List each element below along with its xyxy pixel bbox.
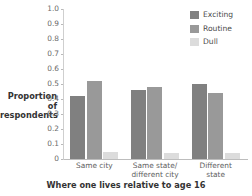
y-tick-label: 0.1 xyxy=(44,140,59,147)
x-tick-label-line: state xyxy=(180,171,252,180)
legend-label: Dull xyxy=(203,37,218,47)
x-axis-label: Where one lives relative to age 16 xyxy=(0,180,252,190)
y-tick-label: 0.6 xyxy=(44,65,59,72)
x-axis-line xyxy=(64,159,248,160)
y-tick-label: 0.7 xyxy=(44,50,59,57)
y-tick-label: 0.3 xyxy=(44,110,59,117)
legend-item[interactable]: Dull xyxy=(190,37,252,48)
y-tick-label: 0.4 xyxy=(44,95,59,102)
bar-chart: Proportion of respondents 1.00.90.80.70.… xyxy=(0,0,252,196)
bar-dull xyxy=(103,152,118,160)
legend-swatch-icon xyxy=(190,25,199,33)
bar-exciting xyxy=(70,96,85,159)
legend-item[interactable]: Routine xyxy=(190,24,252,35)
y-tick-label: 1.0 xyxy=(44,5,59,12)
legend-swatch-icon xyxy=(190,11,199,19)
legend-label: Routine xyxy=(203,24,232,34)
bar-routine xyxy=(147,87,162,159)
bar-exciting xyxy=(131,90,146,159)
bar-routine xyxy=(208,93,223,159)
y-tick-label: 0 xyxy=(44,155,59,162)
y-tick-label: 0.2 xyxy=(44,125,59,132)
y-tick-label: 0.9 xyxy=(44,20,59,27)
legend-swatch-icon xyxy=(190,38,199,46)
bar-dull xyxy=(164,153,179,159)
bar-group xyxy=(125,9,186,159)
x-tick-label: Differentstate xyxy=(180,162,252,179)
bar-exciting xyxy=(192,84,207,159)
bar-group xyxy=(64,9,125,159)
legend-label: Exciting xyxy=(203,10,233,20)
chart-legend: ExcitingRoutineDull xyxy=(190,10,252,51)
y-tick-label: 0.5 xyxy=(44,80,59,87)
y-tick-label: 0.8 xyxy=(44,35,59,42)
bar-routine xyxy=(87,81,102,159)
bar-dull xyxy=(225,153,240,159)
legend-item[interactable]: Exciting xyxy=(190,10,252,21)
